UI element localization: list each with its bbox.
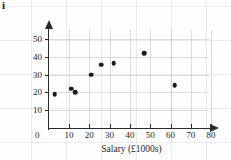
y-tick-label: 10 [24,105,42,115]
scatter-chart: 1020304050607080 1020304050 0 Salary (£1… [0,0,231,160]
x-tick [150,124,151,128]
data-point [89,72,94,77]
x-tick-label: 10 [65,130,74,140]
x-tick-label: 50 [146,130,155,140]
x-tick-label: 30 [105,130,114,140]
y-tick [45,110,49,111]
x-tick [191,124,192,128]
x-tick-label: 80 [207,130,216,140]
y-tick-label: 50 [24,34,42,44]
x-tick [110,124,111,128]
x-tick-label: 60 [166,130,175,140]
y-tick [45,39,49,40]
y-axis-arrow-icon [45,20,53,29]
x-axis-title: Salary (£1000s) [101,144,161,154]
gridline-vertical [89,30,90,127]
y-tick-label: 20 [24,87,42,97]
gridline-vertical [211,30,212,127]
y-axis-line [48,27,49,130]
data-point [52,92,57,97]
figure-root: i 1020304050607080 1020304050 0 Salary (… [0,0,231,160]
x-tick-label: 20 [85,130,94,140]
x-tick [89,124,90,128]
data-point [172,83,177,88]
gridline-vertical [130,30,131,127]
gridline-vertical [191,30,192,127]
gridline-vertical [150,30,151,127]
y-tick [45,92,49,93]
x-tick-label: 70 [186,130,195,140]
x-tick [211,124,212,128]
gridline-vertical [110,30,111,127]
origin-label: 0 [35,130,40,140]
y-tick [45,57,49,58]
gridline-vertical [171,30,172,127]
data-point [142,51,147,56]
y-tick-label: 40 [24,52,42,62]
y-tick-label: 30 [24,70,42,80]
data-point [73,90,78,95]
x-tick-label: 40 [125,130,134,140]
x-tick [130,124,131,128]
data-point [99,62,104,67]
x-tick [69,124,70,128]
data-point [111,61,116,66]
gridline-vertical [69,30,70,127]
y-tick [45,75,49,76]
x-tick [171,124,172,128]
